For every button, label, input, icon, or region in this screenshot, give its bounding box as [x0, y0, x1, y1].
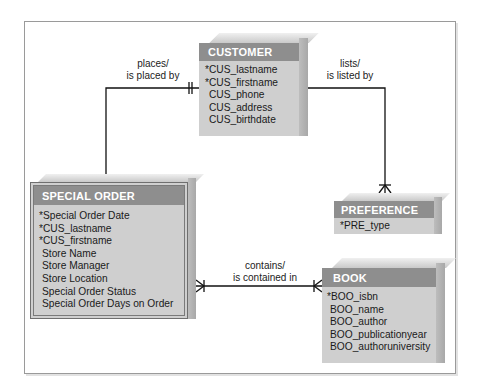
attribute-list: *CUS_lastname *CUS_firstname CUS_phone C… — [199, 61, 299, 127]
attribute-list: *PRE_type — [334, 218, 434, 233]
entity-preference[interactable]: PREFERENCE *PRE_type — [334, 193, 442, 235]
attribute: CUS_phone — [205, 89, 299, 102]
attribute: BOO_publicationyear — [327, 329, 436, 342]
relationship-label-lists: lists/ is listed by — [317, 58, 383, 82]
entity-header: PREFERENCE — [334, 201, 434, 218]
entity-bevel-side — [434, 197, 442, 234]
relationship-label-contains: contains/ is contained in — [220, 260, 310, 284]
attribute: BOO_authoruniversity — [327, 341, 436, 354]
attribute: BOO_name — [327, 304, 436, 317]
attribute: BOO_author — [327, 316, 436, 329]
relationship-label-places: places/ is placed by — [118, 58, 188, 82]
entity-bevel-side — [436, 263, 445, 363]
entity-special-order[interactable]: SPECIAL ORDER *Special Order Date *CUS_l… — [30, 174, 196, 320]
entity-customer[interactable]: CUSTOMER *CUS_lastname *CUS_firstname CU… — [199, 33, 309, 137]
relationship-line-lists — [298, 88, 385, 193]
entity-bevel-side — [299, 38, 308, 136]
entity-book[interactable]: BOOK *BOO_isbn BOO_name BOO_author BOO_p… — [322, 258, 446, 364]
attribute: CUS_address — [205, 102, 299, 115]
entity-header: CUSTOMER — [199, 43, 299, 61]
attribute: *PRE_type — [340, 220, 434, 233]
entity-bevel-top — [38, 174, 204, 182]
attribute: *CUS_lastname — [205, 64, 299, 77]
attribute: *BOO_isbn — [327, 291, 436, 304]
attribute: CUS_birthdate — [205, 114, 299, 127]
entity-bevel-side — [188, 178, 196, 319]
attribute-list: *BOO_isbn BOO_name BOO_author BOO_public… — [322, 287, 436, 354]
entity-header: BOOK — [322, 268, 436, 287]
attribute: *CUS_firstname — [205, 77, 299, 90]
